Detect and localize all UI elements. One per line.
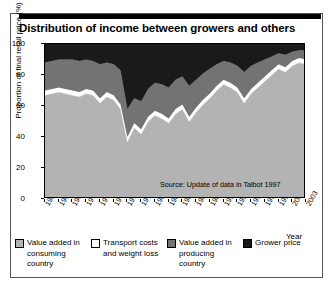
legend-label: Transport costs and weight loss: [103, 238, 161, 259]
legend-item-3[interactable]: Grower price: [243, 238, 313, 270]
legend-swatch-icon: [15, 239, 24, 248]
y-tick-label: 40: [0, 132, 25, 141]
legend-item-1[interactable]: Transport costs and weight loss: [91, 238, 161, 270]
chart-title: Distribution of income between growers a…: [19, 22, 319, 34]
y-tick-label: 80: [0, 70, 25, 79]
y-tick-label: 0: [0, 194, 25, 203]
source-annotation: Source: Update of data in Talbot 1997: [160, 180, 281, 189]
y-tick-label: 100: [0, 39, 25, 48]
stacked-area-svg: [45, 44, 305, 198]
legend-label: Value added in producing country: [179, 238, 237, 270]
legend-swatch-icon: [243, 239, 252, 248]
y-tick-label: 20: [0, 163, 25, 172]
legend-swatch-icon: [91, 239, 100, 248]
legend-item-0[interactable]: Value added in consuming country: [15, 238, 85, 270]
plot-area: [44, 43, 305, 198]
y-tick-label: 60: [0, 101, 25, 110]
chart-figure: Distribution of income between growers a…: [0, 0, 333, 287]
chart-legend: Value added in consuming countryTranspor…: [15, 238, 315, 270]
legend-label: Value added in consuming country: [27, 238, 85, 270]
legend-item-2[interactable]: Value added in producing country: [167, 238, 237, 270]
legend-swatch-icon: [167, 239, 176, 248]
legend-label: Grower price: [255, 238, 301, 249]
title-rule: [19, 14, 321, 19]
